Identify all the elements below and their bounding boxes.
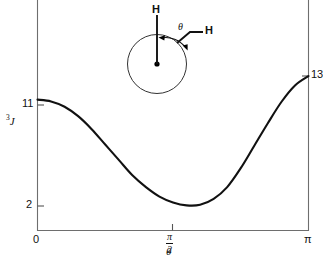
plot-canvas xyxy=(0,0,323,264)
atom-label-h-rear: H xyxy=(205,25,213,36)
dihedral-angle-label: θ xyxy=(178,22,183,32)
x-axis-label: θ xyxy=(166,246,171,257)
karplus-curve-figure: 3J 11 2 13 0 π 2 π θ H H θ xyxy=(0,0,323,264)
bond-rear-h xyxy=(177,32,203,43)
y-tick-label-2: 2 xyxy=(26,199,32,210)
x-tick-label-0: 0 xyxy=(33,234,39,245)
y-tick-label-11: 11 xyxy=(22,98,33,109)
y-axis-label: 3J xyxy=(6,114,15,127)
atom-label-h-front: H xyxy=(152,4,160,15)
dihedral-arrow-left xyxy=(159,35,166,40)
y-tick-label-13: 13 xyxy=(311,69,323,80)
karplus-curve-path xyxy=(38,76,309,206)
fraction-numerator: π xyxy=(166,232,173,243)
x-tick-label-pi: π xyxy=(304,234,312,245)
y-axis-label-symbol: J xyxy=(10,115,15,127)
